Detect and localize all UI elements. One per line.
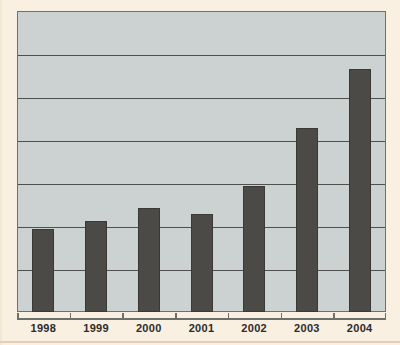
x-axis-label-1998: 1998 [17,322,70,334]
x-axis-label-2002: 2002 [228,322,281,334]
x-axis-tick-5 [281,313,283,320]
bar-1999[interactable] [85,221,107,312]
bar-2003[interactable] [296,128,318,312]
bar-2004[interactable] [349,69,371,312]
x-axis-tick-2 [122,313,124,320]
bar-1998[interactable] [32,229,54,312]
x-axis-tick-0 [17,313,19,320]
x-axis-tick-1 [70,313,72,320]
x-axis-label-2003: 2003 [281,322,334,334]
bar-2001[interactable] [191,214,213,312]
page-bottom-rule [0,341,400,343]
x-axis-labels: 1998 1999 2000 2001 2002 2003 2004 [17,322,386,340]
x-axis-label-2000: 2000 [122,322,175,334]
bar-chart: 1998 1999 2000 2001 2002 2003 2004 [0,0,400,345]
page-left-edge-rule [0,0,2,345]
x-axis-label-2004: 2004 [333,322,386,334]
x-axis-line [17,318,386,320]
bars-layer [17,11,386,312]
x-axis-tick-4 [228,313,230,320]
bar-2000[interactable] [138,208,160,312]
x-axis-label-2001: 2001 [175,322,228,334]
x-axis-tick-3 [175,313,177,320]
bar-2002[interactable] [243,186,265,312]
x-axis-tick-6 [333,313,335,320]
x-axis-label-1999: 1999 [70,322,123,334]
x-axis-tick-7 [385,313,387,320]
